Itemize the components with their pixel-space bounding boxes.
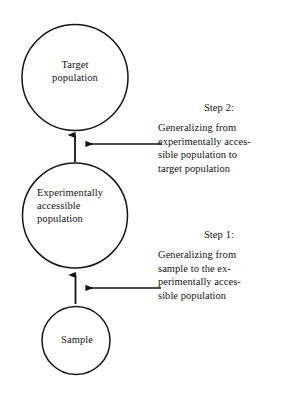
step-2-heading: Step 2: [158,101,280,114]
generalization-diagram: Target population Experimentally accessi… [0,0,286,396]
step-2-description: Generalizing from experimentally acces- … [158,121,280,175]
step-1-heading: Step 1: [158,228,280,241]
step-1-annotation: Step 1: Generalizing from sample to the … [158,228,280,302]
step-2-annotation: Step 2: Generalizing from experimentally… [158,101,280,175]
node-label-experimentally-accessible-population: Experimentally accessible population [37,186,129,225]
node-label-sample: Sample [43,333,111,346]
step-1-description: Generalizing from sample to the ex- peri… [158,248,280,302]
node-label-target-population: Target population [22,58,128,84]
